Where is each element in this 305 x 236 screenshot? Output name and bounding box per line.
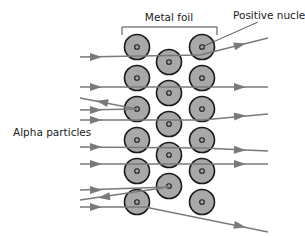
atom xyxy=(157,174,182,199)
arrowhead-icon xyxy=(90,106,102,114)
atom-circle xyxy=(157,112,182,137)
atom-circle xyxy=(157,174,182,199)
arrowhead-icon xyxy=(234,146,246,155)
alpha-particles-label: Alpha particles xyxy=(13,126,91,138)
arrowhead-icon xyxy=(234,83,246,91)
atom xyxy=(190,97,215,122)
arrowhead-icon xyxy=(90,83,102,91)
arrowhead-icon xyxy=(90,143,102,151)
atom-circle xyxy=(125,128,150,153)
rutherford-scattering-diagram: Metal foil Positive nucleus Alpha partic… xyxy=(0,0,305,236)
atom xyxy=(157,112,182,137)
arrowhead-icon xyxy=(234,160,246,168)
metal-foil-label: Metal foil xyxy=(145,11,193,23)
arrowhead-icon xyxy=(233,221,246,231)
arrowhead-icon xyxy=(90,116,102,124)
alpha-path-deflected-small xyxy=(80,203,268,232)
atom xyxy=(190,159,215,184)
atom-circle xyxy=(190,97,215,122)
arrowhead-icon xyxy=(90,53,102,61)
atom xyxy=(157,50,182,75)
arrowhead-icon xyxy=(90,186,102,194)
atom-circle xyxy=(125,159,150,184)
atom xyxy=(190,190,215,215)
atom xyxy=(157,81,182,106)
arrowhead-icon xyxy=(90,203,102,211)
arrowhead-icon xyxy=(233,40,247,51)
trajectory-line xyxy=(80,207,268,232)
arrowhead-icon xyxy=(90,160,102,168)
atom xyxy=(125,159,150,184)
trajectory-line xyxy=(80,109,137,110)
atom-circle xyxy=(190,190,215,215)
atom-circle xyxy=(190,159,215,184)
atom xyxy=(125,128,150,153)
atom-circle xyxy=(157,81,182,106)
atom-circle xyxy=(157,50,182,75)
positive-nucleus-label: Positive nucleus xyxy=(233,9,305,21)
arrowhead-icon xyxy=(234,111,247,120)
